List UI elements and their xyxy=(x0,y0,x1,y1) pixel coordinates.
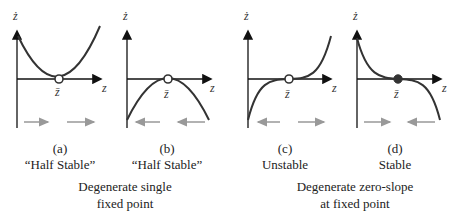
panel-b-caption: (b) “Half Stable” xyxy=(117,141,217,173)
fixed-point-open xyxy=(55,75,63,83)
curve xyxy=(18,26,100,77)
svg-text:ż: ż xyxy=(243,9,249,23)
phase-plot-c: ż z z̄ xyxy=(230,0,344,140)
panel-d-caption: (d) Stable xyxy=(350,141,440,173)
svg-text:z: z xyxy=(101,81,107,95)
panel-c: ż z z̄ xyxy=(230,0,344,140)
svg-text:ż: ż xyxy=(352,9,358,23)
svg-text:z̄: z̄ xyxy=(284,87,290,101)
svg-text:ż: ż xyxy=(122,9,128,23)
svg-text:z̄: z̄ xyxy=(54,85,60,99)
phase-plot-b: ż z z̄ xyxy=(110,0,224,140)
fixed-point-open xyxy=(285,75,293,83)
fixed-point-filled xyxy=(394,75,402,83)
panel-b: ż z z̄ xyxy=(110,0,224,140)
phase-plot-a: ż z z̄ xyxy=(0,0,114,140)
panel-c-caption: (c) Unstable xyxy=(240,141,330,173)
group-caption-right: Degenerate zero-slope at fixed point xyxy=(280,178,430,212)
svg-text:z: z xyxy=(209,81,215,95)
group-caption-left: Degenerate single fixed point xyxy=(60,178,190,212)
panel-a: ż z z̄ xyxy=(0,0,114,140)
svg-text:z̄: z̄ xyxy=(163,87,169,101)
phase-plot-d: ż z z̄ xyxy=(340,0,458,140)
panel-d: ż z z̄ xyxy=(340,0,454,140)
panel-a-caption: (a) “Half Stable” xyxy=(10,141,110,173)
svg-text:z: z xyxy=(441,81,447,95)
fixed-point-open xyxy=(164,75,172,83)
svg-text:ż: ż xyxy=(12,9,18,23)
svg-text:z̄: z̄ xyxy=(393,87,399,101)
svg-text:z: z xyxy=(331,81,337,95)
